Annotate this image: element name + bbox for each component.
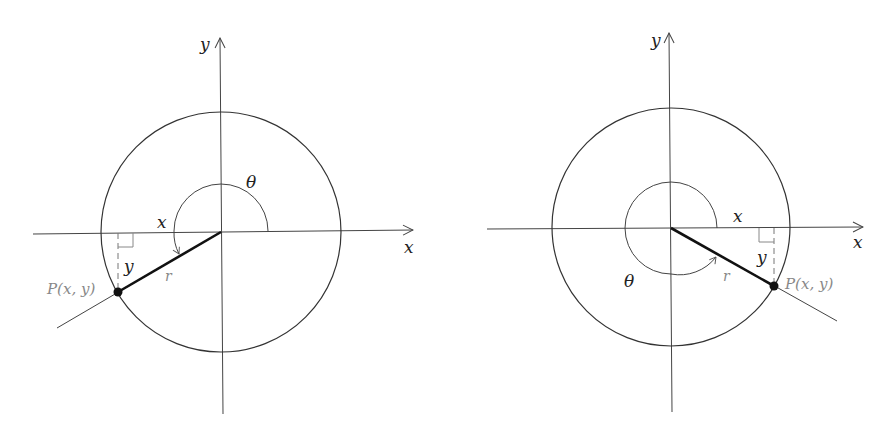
theta-label: θ xyxy=(624,271,634,291)
leg-y-label: y xyxy=(123,256,134,276)
right-angle-marker xyxy=(118,233,133,247)
y-axis xyxy=(669,33,672,412)
x-axis-label: x xyxy=(853,232,863,252)
leg-y-label: y xyxy=(756,247,767,267)
x-axis xyxy=(33,230,413,234)
leg-x-label: x xyxy=(157,212,167,232)
point-label: P(x, y) xyxy=(784,275,833,293)
figure-left: y x θ x y r P(x, y) xyxy=(33,34,414,414)
figure-right: y x θ x y r P(x, y) xyxy=(487,30,863,412)
radius-label: r xyxy=(723,268,731,284)
radius-label: r xyxy=(165,268,173,284)
y-axis-label: y xyxy=(199,34,210,54)
point-label: P(x, y) xyxy=(46,280,95,298)
point-p xyxy=(770,282,779,291)
x-axis xyxy=(487,227,863,229)
point-p xyxy=(114,288,123,297)
theta-label: θ xyxy=(246,172,256,192)
right-angle-marker xyxy=(759,228,774,242)
y-axis-label: y xyxy=(650,30,661,50)
diagram-canvas: y x θ x y r P(x, y) y x θ x y r P(x, y) xyxy=(0,0,885,444)
y-axis xyxy=(220,38,223,414)
leg-x-label: x xyxy=(733,206,743,226)
x-axis-label: x xyxy=(404,237,414,257)
